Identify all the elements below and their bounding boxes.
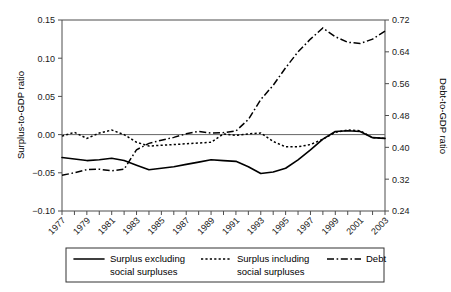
y-tick-label-right: 0.32 <box>392 175 410 185</box>
x-tick-label: 1999 <box>319 215 340 236</box>
x-tick-label: 1981 <box>96 215 117 236</box>
series-line-surplus-excluding-social-surpluses <box>62 131 385 174</box>
x-tick-label: 1987 <box>170 215 191 236</box>
x-tick-label: 1979 <box>71 215 92 236</box>
y-tick-label-right: 0.64 <box>392 47 410 57</box>
chart-legend: Surplus excluding social surpluses Surpl… <box>66 248 386 282</box>
legend-label-debt: Debt <box>366 253 386 264</box>
x-tick-label: 1991 <box>220 215 241 236</box>
legend-label-surplus-excluding-line1: Surplus excluding <box>110 253 185 264</box>
x-tick-label: 2001 <box>344 215 365 236</box>
x-tick-label: 1983 <box>121 215 142 236</box>
y-tick-label-right: 0.48 <box>392 111 410 121</box>
y-tick-label-right: 0.40 <box>392 143 410 153</box>
y-axis-left-title: Surplus-to-GDP ratio <box>15 71 26 159</box>
legend-label-surplus-including-line2: social surpluses <box>237 266 305 277</box>
x-tick-label: 1997 <box>295 215 316 236</box>
x-tick-label: 1995 <box>270 215 291 236</box>
y-tick-label-right: 0.56 <box>392 79 410 89</box>
x-tick-label: 1993 <box>245 215 266 236</box>
y-tick-label-left: 0.15 <box>37 15 55 25</box>
y-tick-label-left: −0.05 <box>32 168 55 178</box>
y-tick-label-right: 0.24 <box>392 206 410 216</box>
x-axis-ticks: 1977197919811983198519871989199119931995… <box>46 211 390 237</box>
y-tick-label-left: 0.10 <box>37 54 55 64</box>
y-axis-left-ticks: 0.150.100.050.00−0.05−0.10 <box>32 15 62 216</box>
y-axis-right-title: Debt-to-GDP ratio <box>438 78 449 154</box>
y-tick-label-left: 0.00 <box>37 130 55 140</box>
x-tick-label: 2003 <box>369 215 390 236</box>
legend-label-surplus-excluding-line2: social surpluses <box>110 266 178 277</box>
plot-axes <box>62 20 385 211</box>
surplus-debt-line-chart: 0.150.100.050.00−0.05−0.10 0.720.640.560… <box>0 0 451 292</box>
chart-figure: 0.150.100.050.00−0.05−0.10 0.720.640.560… <box>0 0 451 292</box>
x-tick-label: 1977 <box>46 215 67 236</box>
legend-label-surplus-including-line1: Surplus including <box>237 253 309 264</box>
y-tick-label-left: 0.05 <box>37 92 55 102</box>
x-tick-label: 1985 <box>146 215 167 236</box>
y-tick-label-left: −0.10 <box>32 206 55 216</box>
x-tick-label: 1989 <box>195 215 216 236</box>
y-tick-label-right: 0.72 <box>392 15 410 25</box>
data-series-group <box>62 28 385 175</box>
series-line-debt <box>62 28 385 175</box>
y-axis-right-ticks: 0.720.640.560.480.400.320.24 <box>385 15 410 216</box>
